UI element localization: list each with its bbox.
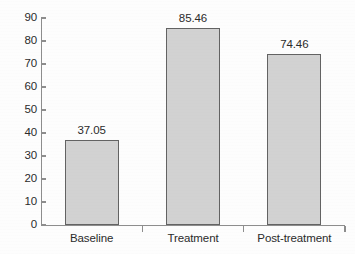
y-axis-label-60: 60 <box>3 81 37 93</box>
bar-treatment[interactable] <box>166 28 220 225</box>
x-axis-line <box>41 225 345 226</box>
y-axis-label-90: 90 <box>3 12 37 24</box>
y-axis-label-40: 40 <box>3 127 37 139</box>
y-tick-10 <box>41 201 46 202</box>
y-tick-70 <box>41 63 46 64</box>
y-axis-label-50: 50 <box>3 104 37 116</box>
y-axis-label-0: 0 <box>3 219 37 231</box>
y-axis-label-30: 30 <box>3 150 37 162</box>
bar-chart: 0102030405060708090 37.0585.4674.46 Base… <box>0 0 355 254</box>
x-axis-label-post-treatment: Post-treatment <box>234 232 354 245</box>
bar-value-label-post-treatment: 74.46 <box>254 39 334 51</box>
y-tick-0 <box>41 224 46 225</box>
y-tick-90 <box>41 17 46 18</box>
bar-value-label-baseline: 37.05 <box>52 125 132 137</box>
y-tick-60 <box>41 86 46 87</box>
y-tick-40 <box>41 132 46 133</box>
y-tick-20 <box>41 178 46 179</box>
bar-post-treatment[interactable] <box>267 54 321 225</box>
y-tick-80 <box>41 40 46 41</box>
y-axis-line <box>41 17 42 226</box>
y-tick-50 <box>41 109 46 110</box>
y-axis-label-20: 20 <box>3 173 37 185</box>
y-axis-label-80: 80 <box>3 35 37 47</box>
y-tick-30 <box>41 155 46 156</box>
y-axis-label-10: 10 <box>3 196 37 208</box>
bar-value-label-treatment: 85.46 <box>153 13 233 25</box>
y-axis-label-70: 70 <box>3 58 37 70</box>
bar-baseline[interactable] <box>65 140 119 225</box>
